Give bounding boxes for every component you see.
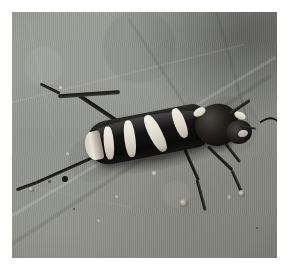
photo-vignette xyxy=(12,12,277,258)
beetle-photograph xyxy=(12,12,277,258)
photo-frame: A black longhorn beetle with four cream-… xyxy=(0,0,289,273)
